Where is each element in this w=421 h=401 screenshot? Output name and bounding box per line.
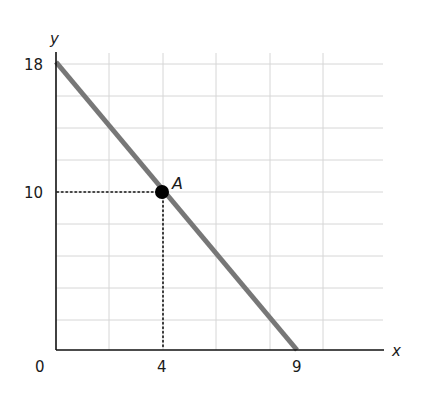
x-axis-label: x — [391, 342, 401, 360]
y-tick-18: 18 — [24, 56, 43, 74]
x-tick-4: 4 — [157, 358, 167, 376]
grid — [56, 53, 383, 350]
guide-lines — [57, 192, 163, 349]
y-axis-label: y — [49, 30, 60, 48]
chart: A y x 18 10 0 4 9 — [0, 0, 421, 401]
point-a-marker — [155, 185, 169, 199]
axes — [56, 52, 384, 350]
point-a-label: A — [171, 174, 183, 193]
origin-label: 0 — [35, 358, 45, 376]
data-line — [56, 62, 297, 350]
x-tick-9: 9 — [292, 358, 302, 376]
y-tick-10: 10 — [24, 184, 43, 202]
